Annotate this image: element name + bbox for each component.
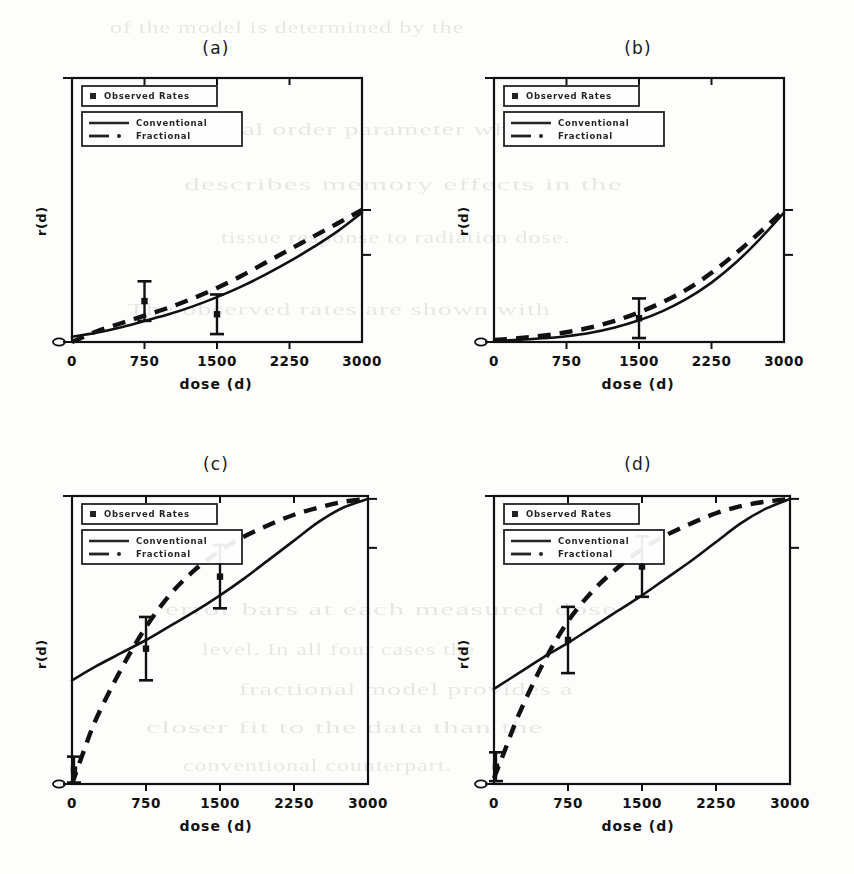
legend: Observed RatesConventionalFractional <box>504 86 664 146</box>
legend-label-observed: Observed Rates <box>526 509 612 519</box>
panel-c: (c) r(d) dose (d) 0 Observed RatesConven… <box>6 452 426 864</box>
panel-a-xlabel: dose (d) <box>6 376 426 392</box>
legend-dot-fractional-icon <box>539 552 543 556</box>
panel-c-ylabel: r(d) <box>34 639 49 669</box>
legend-label-fractional: Fractional <box>558 549 613 559</box>
panel-c-xlabel: dose (d) <box>6 818 426 834</box>
figure-dose-response: (a) r(d) dose (d) 0 Observed RatesConven… <box>0 0 854 874</box>
observed-marker-icon <box>90 511 96 517</box>
panel-a: (a) r(d) dose (d) 0 Observed RatesConven… <box>6 36 426 436</box>
x-tick-label: 750 <box>130 353 160 369</box>
x-tick-label: 2250 <box>270 353 310 369</box>
legend-label-observed: Observed Rates <box>104 91 190 101</box>
legend: Observed RatesConventionalFractional <box>504 504 664 564</box>
legend-dot-fractional-icon <box>117 134 121 138</box>
panel-b: (b) r(d) dose (d) 0 Observed RatesConven… <box>428 36 848 436</box>
panel-b-ylabel: r(d) <box>456 207 471 237</box>
panel-d-ylabel: r(d) <box>456 639 471 669</box>
x-tick-label: 0 <box>489 353 499 369</box>
x-tick-label: 0 <box>67 353 77 369</box>
legend: Observed RatesConventionalFractional <box>82 504 242 564</box>
x-tick-label: 2250 <box>696 795 736 811</box>
legend-label-conventional: Conventional <box>558 536 629 546</box>
panel-d-title: (d) <box>428 454 848 474</box>
x-tick-label: 0 <box>489 795 499 811</box>
legend: Observed RatesConventionalFractional <box>82 86 242 146</box>
x-tick-label: 1500 <box>622 795 662 811</box>
legend-label-conventional: Conventional <box>558 118 629 128</box>
observed-point-errorbar <box>139 617 153 680</box>
x-tick-label: 2250 <box>274 795 314 811</box>
legend-label-fractional: Fractional <box>558 131 613 141</box>
legend-label-conventional: Conventional <box>136 118 207 128</box>
x-tick-label: 3000 <box>348 795 388 811</box>
x-tick-label: 0 <box>67 795 77 811</box>
legend-label-observed: Observed Rates <box>104 509 190 519</box>
x-tick-label: 750 <box>553 795 583 811</box>
panel-c-title: (c) <box>6 454 426 474</box>
legend-label-observed: Observed Rates <box>526 91 612 101</box>
x-tick-label: 1500 <box>200 795 240 811</box>
panel-a-title: (a) <box>6 38 426 58</box>
legend-label-fractional: Fractional <box>136 131 191 141</box>
x-tick-label: 1500 <box>619 353 659 369</box>
legend-label-conventional: Conventional <box>136 536 207 546</box>
x-tick-label: 3000 <box>764 353 804 369</box>
observed-marker-icon <box>512 93 518 99</box>
observed-marker-icon <box>512 511 518 517</box>
panel-d: (d) r(d) dose (d) 0 Observed RatesConven… <box>428 452 848 864</box>
panel-b-xlabel: dose (d) <box>428 376 848 392</box>
panel-b-title: (b) <box>428 38 848 58</box>
legend-dot-fractional-icon <box>117 552 121 556</box>
legend-label-fractional: Fractional <box>136 549 191 559</box>
x-tick-label: 3000 <box>342 353 382 369</box>
legend-dot-fractional-icon <box>539 134 543 138</box>
x-tick-label: 750 <box>552 353 582 369</box>
panel-a-ylabel: r(d) <box>34 207 49 237</box>
panel-d-xlabel: dose (d) <box>428 818 848 834</box>
x-tick-label: 2250 <box>692 353 732 369</box>
observed-marker-icon <box>90 93 96 99</box>
x-tick-label: 750 <box>131 795 161 811</box>
x-tick-label: 1500 <box>197 353 237 369</box>
x-tick-label: 3000 <box>770 795 810 811</box>
